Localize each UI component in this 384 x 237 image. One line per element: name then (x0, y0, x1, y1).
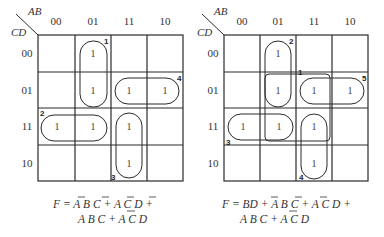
loop-number: 1 (104, 37, 109, 46)
equation-line-2: A B C + A C D (239, 213, 310, 225)
kmap-right: AB CD 00 01 11 10 00 01 11 10 1 1 1 1 1 … (197, 5, 368, 225)
equation-line-1: F = BD + A B C + A C D + (221, 198, 351, 210)
loop-number: 2 (40, 109, 45, 118)
col-label: 01 (88, 15, 99, 27)
row-label: 00 (22, 47, 34, 59)
cell-value: 1 (276, 48, 281, 59)
equation-line-2: A B C + A C D (77, 213, 148, 225)
cell-value: 1 (55, 121, 60, 132)
loop-number: 4 (177, 74, 182, 83)
col-label: 10 (160, 15, 172, 27)
row-var-label: CD (197, 26, 212, 38)
row-label: 01 (208, 84, 219, 96)
cell-value: 1 (312, 85, 317, 96)
row-label: 00 (208, 47, 220, 59)
cell-value: 1 (91, 48, 96, 59)
col-var-label: AB (27, 5, 42, 17)
col-label: 11 (309, 15, 320, 27)
col-label: 10 (345, 15, 357, 27)
cell-value: 1 (348, 85, 353, 96)
kmap-grid (224, 35, 368, 181)
row-label: 10 (208, 157, 220, 169)
row-label: 01 (22, 84, 33, 96)
cell-value: 1 (127, 121, 132, 132)
loop-number: 3 (226, 138, 231, 147)
col-label: 00 (51, 15, 63, 27)
row-label: 10 (22, 157, 34, 169)
cell-value: 1 (91, 85, 96, 96)
cell-value: 1 (91, 121, 96, 132)
row-label: 11 (208, 120, 219, 132)
cell-value: 1 (312, 121, 317, 132)
cell-value: 1 (127, 85, 132, 96)
cell-value: 1 (276, 85, 281, 96)
cell-value: 1 (127, 158, 132, 169)
row-var-label: CD (11, 26, 26, 38)
loop-number: 1 (298, 68, 303, 77)
cell-value: 1 (241, 121, 246, 132)
karnaugh-maps-figure: AB CD 00 01 11 10 00 01 11 10 1 1 1 1 1 … (0, 0, 384, 237)
kmap-grid (38, 35, 183, 181)
loop-2 (41, 115, 107, 141)
cell-value: 1 (163, 85, 168, 96)
loop-number: 2 (289, 37, 294, 46)
cell-value: 1 (277, 121, 282, 132)
equation-line-1: F = A B C + A C D + (52, 198, 153, 210)
loop-number: 3 (111, 173, 116, 182)
row-label: 11 (22, 120, 33, 132)
loop-number: 4 (299, 173, 304, 182)
kmap-left: AB CD 00 01 11 10 00 01 11 10 1 1 1 1 1 … (11, 5, 183, 225)
col-var-label: AB (213, 5, 228, 17)
col-label: 11 (124, 15, 135, 27)
col-label: 00 (237, 15, 249, 27)
col-label: 01 (273, 15, 284, 27)
loop-number: 5 (362, 74, 367, 83)
cell-value: 1 (312, 158, 317, 169)
